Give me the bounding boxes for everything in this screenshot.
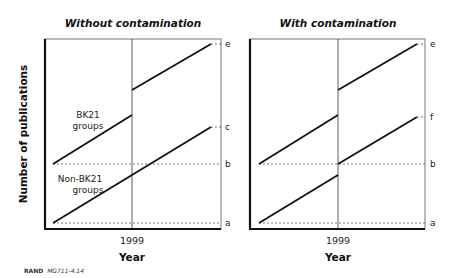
non-bk21-label: Non-BK21 — [58, 174, 102, 184]
y-axis-title: Number of publications — [17, 65, 29, 204]
level-b-label: b — [430, 159, 436, 169]
level-f-label: f — [430, 112, 434, 122]
non-bk21-label-2: groups — [73, 185, 104, 195]
figure: Number of publications Without contamina… — [0, 0, 461, 278]
x-axis-title: Year — [324, 251, 352, 263]
level-a-label: a — [225, 218, 231, 228]
credit-org: RAND — [24, 267, 43, 274]
level-c-label: c — [225, 122, 230, 132]
level-b-label: b — [225, 159, 231, 169]
panel-without-contamination: Without contamination BK21 groups Non-BK… — [44, 17, 231, 263]
plot-frame — [250, 39, 425, 229]
panel-title: With contamination — [280, 17, 397, 29]
bk21-label-2: groups — [73, 121, 104, 131]
credit-id: MG711-4.14 — [47, 267, 84, 274]
bk21-line-pre — [259, 115, 338, 164]
level-e-label: e — [430, 39, 436, 49]
panel-title: Without contamination — [65, 17, 201, 29]
figure-credit: RAND MG711-4.14 — [24, 267, 84, 274]
x-tick-1999: 1999 — [120, 235, 144, 246]
bk21-line-post — [338, 44, 417, 90]
non-bk21-line-post — [338, 117, 417, 164]
plot-frame — [45, 39, 221, 229]
level-e-label: e — [225, 39, 231, 49]
panel-with-contamination: With contamination e f b a 1999 Year — [249, 17, 436, 263]
level-a-label: a — [430, 218, 436, 228]
bk21-label: BK21 — [76, 110, 100, 120]
x-axis-title: Year — [118, 251, 146, 263]
bk21-line-post — [132, 44, 211, 90]
non-bk21-line-pre — [259, 175, 338, 223]
x-tick-1999: 1999 — [326, 235, 350, 246]
